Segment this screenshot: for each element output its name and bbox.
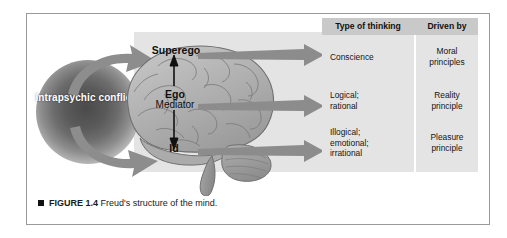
right-arrow-icon bbox=[198, 44, 324, 66]
figure-container: Intrapsychic conflicts bbox=[0, 0, 507, 238]
table-row: Conscience bbox=[330, 52, 412, 63]
figure-caption: FIGURE 1.4 Freud's structure of the mind… bbox=[38, 198, 217, 208]
row-arrows-group bbox=[196, 44, 326, 174]
column-divider bbox=[414, 35, 416, 172]
table-header-row: Type of thinking Driven by bbox=[322, 18, 478, 35]
table-body: Conscience Moral principles Logical; rat… bbox=[322, 35, 478, 172]
table-row: Moral principles bbox=[418, 46, 476, 67]
caption-figure-number: FIGURE 1.4 bbox=[49, 198, 98, 208]
label-id: Id bbox=[152, 142, 196, 154]
thinking-table: Type of thinking Driven by Conscience Mo… bbox=[322, 18, 478, 172]
table-row: Logical; rational bbox=[330, 90, 412, 111]
column-header-driven-by: Driven by bbox=[416, 18, 478, 35]
table-row: Reality principle bbox=[418, 90, 476, 111]
right-arrow-icon bbox=[198, 140, 324, 162]
table-row: Pleasure principle bbox=[418, 132, 476, 153]
column-header-type-of-thinking: Type of thinking bbox=[322, 18, 414, 35]
right-arrow-icon bbox=[198, 95, 324, 117]
caption-bullet-icon bbox=[38, 200, 44, 206]
table-row: Illogical; emotional; irrational bbox=[330, 127, 412, 159]
caption-text: Freud's structure of the mind. bbox=[98, 198, 217, 208]
